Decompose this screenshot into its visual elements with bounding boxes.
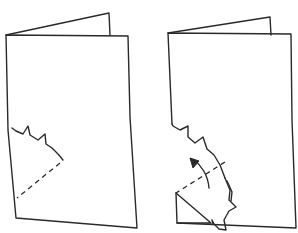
left-fold-line <box>17 163 60 198</box>
right-card-panel <box>168 17 296 230</box>
fold-direction-arrowhead-icon <box>190 158 199 168</box>
right-card-cut-edge <box>172 124 225 178</box>
left-card-panel <box>6 13 137 228</box>
left-card-front <box>6 35 137 228</box>
right-folded-flap <box>212 178 236 230</box>
left-card-back-flap <box>6 13 110 35</box>
right-card-front-outline <box>168 33 296 228</box>
pop-up-card-diagram <box>0 0 298 233</box>
left-zigzag-cut <box>12 126 63 160</box>
right-card-back-flap <box>168 17 271 35</box>
right-folded-triangle <box>176 193 211 223</box>
